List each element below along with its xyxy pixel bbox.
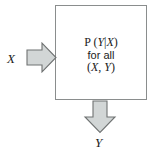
output-arrow-icon — [85, 101, 115, 133]
input-arrow-icon — [27, 43, 56, 72]
output-label-y: Y — [95, 136, 102, 149]
input-label-x: X — [7, 52, 15, 65]
block-diagram: P (Y|X) for all (X, Y) X Y — [0, 0, 157, 154]
arrow-layer — [0, 0, 157, 154]
